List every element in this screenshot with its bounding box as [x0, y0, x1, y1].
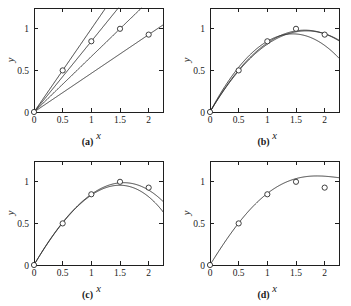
- data-point-marker: [293, 179, 298, 184]
- panel-d: 00.511.5200.51xy (d): [176, 153, 351, 306]
- fit-curve: [210, 176, 339, 265]
- panel-a-caption: (a): [0, 136, 175, 147]
- y-tick-label: 1: [200, 177, 205, 187]
- panel-c-caption: (c): [0, 289, 175, 300]
- data-point-marker: [89, 39, 94, 44]
- y-axis-label: y: [5, 57, 16, 63]
- x-tick-label: 0.5: [57, 268, 69, 278]
- x-tick-label: 0.5: [233, 268, 245, 278]
- fit-curve: [210, 31, 339, 112]
- y-axis-label: y: [181, 57, 192, 63]
- x-tick-label: 2: [322, 268, 327, 278]
- x-tick-label: 0: [32, 268, 37, 278]
- x-tick-label: 1.5: [290, 115, 302, 125]
- data-point-marker: [236, 68, 241, 73]
- x-tick-label: 2: [322, 115, 327, 125]
- panel-a: 00.511.5200.51xy (a): [0, 0, 175, 153]
- panel-c-plot: 00.511.5200.51xy: [0, 153, 175, 306]
- data-point-marker: [293, 26, 298, 31]
- x-tick-label: 1.5: [114, 268, 126, 278]
- x-tick-label: 0: [208, 115, 213, 125]
- y-tick-label: 0.5: [193, 219, 205, 229]
- data-point-marker: [146, 185, 151, 190]
- fit-curve: [34, 8, 118, 112]
- data-point-marker: [31, 109, 36, 114]
- y-axis-label: y: [181, 210, 192, 216]
- fit-curve: [34, 9, 105, 112]
- x-tick-label: 2: [146, 115, 151, 125]
- panel-d-plot: 00.511.5200.51xy: [176, 153, 351, 306]
- x-tick-label: 1.5: [114, 115, 126, 125]
- panel-b-plot: 00.511.5200.51xy: [176, 0, 351, 153]
- data-point-marker: [207, 109, 212, 114]
- x-tick-label: 1: [265, 115, 270, 125]
- y-tick-label: 0.5: [17, 66, 29, 76]
- data-point-marker: [207, 262, 212, 267]
- data-point-marker: [236, 221, 241, 226]
- y-tick-label: 0: [200, 261, 205, 271]
- data-point-marker: [146, 32, 151, 37]
- x-tick-label: 0.5: [233, 115, 245, 125]
- panel-a-plot: 00.511.5200.51xy: [0, 0, 175, 153]
- data-point-marker: [60, 221, 65, 226]
- panel-b-caption: (b): [176, 136, 351, 147]
- y-tick-label: 0.5: [17, 219, 29, 229]
- y-tick-label: 0: [200, 108, 205, 118]
- data-point-marker: [31, 262, 36, 267]
- data-point-marker: [322, 32, 327, 37]
- y-tick-label: 1: [24, 177, 29, 187]
- fit-curve: [34, 185, 163, 265]
- fit-curve: [210, 34, 339, 112]
- fit-curve: [34, 8, 141, 112]
- data-point-marker: [117, 179, 122, 184]
- panel-c: 00.511.5200.51xy (c): [0, 153, 175, 306]
- panel-d-caption: (d): [176, 289, 351, 300]
- y-tick-label: 0: [24, 108, 29, 118]
- data-point-marker: [265, 39, 270, 44]
- x-tick-label: 2: [146, 268, 151, 278]
- x-tick-label: 1: [265, 268, 270, 278]
- polynomial-fit-figure: 00.511.5200.51xy (a) 00.511.5200.51xy (b…: [0, 0, 351, 306]
- fit-curve: [34, 183, 163, 265]
- panel-b: 00.511.5200.51xy (b): [176, 0, 351, 153]
- x-tick-label: 0.5: [57, 115, 69, 125]
- data-point-marker: [117, 26, 122, 31]
- data-point-marker: [322, 185, 327, 190]
- x-tick-label: 1: [89, 115, 94, 125]
- data-point-marker: [89, 192, 94, 197]
- data-point-marker: [265, 192, 270, 197]
- fit-curve: [34, 25, 163, 112]
- x-tick-label: 1: [89, 268, 94, 278]
- y-tick-label: 0: [24, 261, 29, 271]
- x-tick-label: 0: [208, 268, 213, 278]
- y-tick-label: 1: [24, 24, 29, 34]
- data-point-marker: [60, 68, 65, 73]
- y-axis-label: y: [5, 210, 16, 216]
- x-tick-label: 0: [32, 115, 37, 125]
- y-tick-label: 1: [200, 24, 205, 34]
- x-tick-label: 1.5: [290, 268, 302, 278]
- y-tick-label: 0.5: [193, 66, 205, 76]
